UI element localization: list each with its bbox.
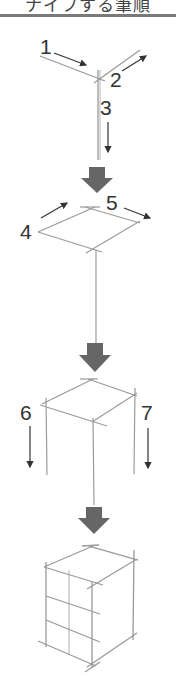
- stroke-label-4: 4: [20, 220, 32, 243]
- stage-3-arrows: [30, 426, 148, 468]
- stroke-label-1: 1: [40, 35, 52, 58]
- stroke-label-6: 6: [20, 401, 32, 424]
- step-arrow-down-icon: [78, 507, 110, 534]
- step-arrow-down-icon: [79, 343, 111, 372]
- box-drawing-diagram: 1 2 3 4 5 6 7: [0, 0, 176, 685]
- stroke-label-7: 7: [141, 401, 153, 424]
- stage-2: [38, 207, 140, 345]
- stroke-label-3: 3: [100, 96, 112, 119]
- stroke-label-2: 2: [110, 68, 122, 91]
- stage-3: [40, 379, 137, 505]
- step-arrow-down-icon: [81, 167, 113, 193]
- stage-1: [40, 50, 140, 160]
- stage-4: [38, 545, 138, 672]
- stroke-label-5: 5: [106, 191, 118, 214]
